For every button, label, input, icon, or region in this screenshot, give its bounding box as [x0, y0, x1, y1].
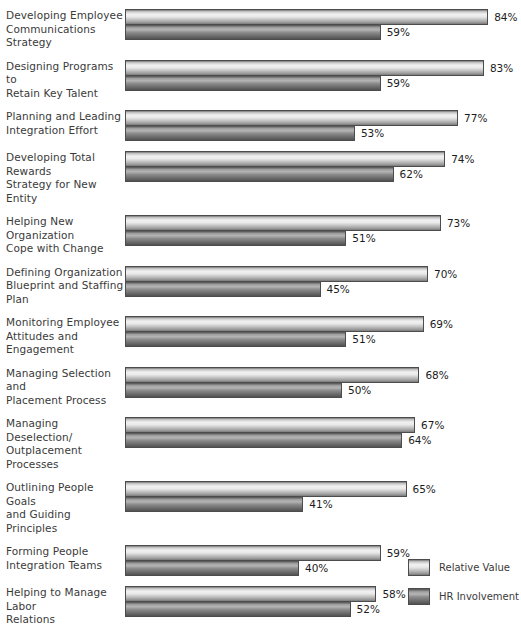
bar-line: 51%: [125, 230, 521, 246]
relative-value-value-label: 74%: [451, 153, 474, 165]
bar-line: 84%: [125, 9, 521, 25]
bar-group: 84%59%: [125, 9, 521, 40]
legend-label-hr-involvement: HR Involvement: [439, 591, 519, 602]
chart-row: Outlining People Goals and Guiding Princ…: [0, 481, 521, 535]
category-label: Forming People Integration Teams: [0, 545, 125, 572]
chart-row: Helping New Organization Cope with Chang…: [0, 215, 521, 256]
relative-value-bar: [125, 110, 458, 126]
relative-value-bar: [125, 60, 484, 76]
relative-value-bar: [125, 545, 381, 561]
bar-line: 59%: [125, 75, 521, 91]
relative-value-bar: [125, 316, 424, 332]
category-label: Managing Deselection/ Outplacement Proce…: [0, 417, 125, 471]
bar-group: 74%62%: [125, 151, 521, 182]
hr-involvement-value-label: 52%: [357, 603, 380, 615]
relative-value-value-label: 70%: [434, 268, 457, 280]
bar-group: 68%50%: [125, 367, 521, 398]
category-label: Developing Employee Communications Strat…: [0, 9, 125, 50]
hr-involvement-bar: [125, 125, 355, 141]
hr-involvement-swatch-icon: [408, 588, 430, 605]
hr-involvement-value-label: 41%: [309, 498, 332, 510]
relative-value-bar: [125, 215, 441, 231]
chart-row: Managing Selection and Placement Process…: [0, 367, 521, 408]
bar-line: 62%: [125, 166, 521, 182]
bar-line: 45%: [125, 281, 521, 297]
hr-involvement-bar: [125, 331, 346, 347]
category-label: Helping to Manage Labor Relations: [0, 586, 125, 624]
hr-involvement-bar: [125, 560, 299, 576]
hr-involvement-value-label: 51%: [352, 232, 375, 244]
relative-value-value-label: 68%: [425, 369, 448, 381]
hr-involvement-value-label: 59%: [387, 77, 410, 89]
hr-involvement-value-label: 64%: [408, 434, 431, 446]
bar-line: 51%: [125, 331, 521, 347]
bar-line: 59%: [125, 24, 521, 40]
bar-line: 53%: [125, 125, 521, 141]
relative-value-bar: [125, 9, 488, 25]
chart-row: Developing Employee Communications Strat…: [0, 9, 521, 50]
bar-line: 68%: [125, 367, 521, 383]
relative-value-bar: [125, 151, 445, 167]
bar-line: 64%: [125, 432, 521, 448]
hr-involvement-bar: [125, 24, 381, 40]
relative-value-swatch-icon: [408, 559, 430, 576]
legend-label-relative-value: Relative Value: [439, 562, 510, 573]
chart-row: Managing Deselection/ Outplacement Proce…: [0, 417, 521, 471]
category-label: Managing Selection and Placement Process: [0, 367, 125, 408]
relative-value-value-label: 77%: [464, 112, 487, 124]
hr-involvement-value-label: 45%: [327, 283, 350, 295]
bar-line: 41%: [125, 496, 521, 512]
relative-value-value-label: 84%: [494, 11, 517, 23]
bar-line: 73%: [125, 215, 521, 231]
hr-involvement-bar: [125, 496, 303, 512]
hr-involvement-bar: [125, 75, 381, 91]
category-label: Planning and Leading Integration Effort: [0, 110, 125, 137]
relative-value-bar: [125, 481, 407, 497]
relative-value-bar: [125, 367, 419, 383]
chart-legend: Relative Value HR Involvement: [408, 559, 519, 617]
relative-value-bar: [125, 586, 376, 602]
category-label: Developing Total Rewards Strategy for Ne…: [0, 151, 125, 205]
relative-value-bar: [125, 417, 415, 433]
hr-involvement-bar: [125, 432, 402, 448]
chart-row: Planning and Leading Integration Effort7…: [0, 110, 521, 141]
bar-line: 70%: [125, 266, 521, 282]
relative-value-value-label: 69%: [430, 318, 453, 330]
bar-chart: Developing Employee Communications Strat…: [0, 0, 521, 624]
hr-involvement-value-label: 50%: [348, 384, 371, 396]
bar-group: 69%51%: [125, 316, 521, 347]
relative-value-value-label: 67%: [421, 419, 444, 431]
hr-involvement-value-label: 59%: [387, 26, 410, 38]
hr-involvement-value-label: 53%: [361, 127, 384, 139]
hr-involvement-bar: [125, 281, 321, 297]
chart-row: Defining Organization Blueprint and Staf…: [0, 266, 521, 307]
legend-item-relative-value: Relative Value: [408, 559, 519, 576]
bar-group: 77%53%: [125, 110, 521, 141]
bar-line: 65%: [125, 481, 521, 497]
chart-row: Developing Total Rewards Strategy for Ne…: [0, 151, 521, 205]
relative-value-value-label: 58%: [382, 588, 405, 600]
relative-value-bar: [125, 266, 428, 282]
bar-line: 74%: [125, 151, 521, 167]
bar-line: 77%: [125, 110, 521, 126]
bar-line: 50%: [125, 382, 521, 398]
category-label: Monitoring Employee Attitudes and Engage…: [0, 316, 125, 357]
category-label: Defining Organization Blueprint and Staf…: [0, 266, 125, 307]
relative-value-value-label: 73%: [447, 217, 470, 229]
chart-row: Designing Programs to Retain Key Talent8…: [0, 60, 521, 101]
chart-row: Monitoring Employee Attitudes and Engage…: [0, 316, 521, 357]
legend-item-hr-involvement: HR Involvement: [408, 588, 519, 605]
hr-involvement-value-label: 51%: [352, 333, 375, 345]
relative-value-value-label: 59%: [387, 547, 410, 559]
bar-group: 67%64%: [125, 417, 521, 448]
bar-line: 83%: [125, 60, 521, 76]
bar-line: 67%: [125, 417, 521, 433]
bar-group: 83%59%: [125, 60, 521, 91]
hr-involvement-value-label: 62%: [400, 168, 423, 180]
category-label: Designing Programs to Retain Key Talent: [0, 60, 125, 101]
bar-group: 65%41%: [125, 481, 521, 512]
relative-value-value-label: 83%: [490, 62, 513, 74]
category-label: Outlining People Goals and Guiding Princ…: [0, 481, 125, 535]
chart-rows: Developing Employee Communications Strat…: [0, 9, 521, 624]
bar-group: 73%51%: [125, 215, 521, 246]
